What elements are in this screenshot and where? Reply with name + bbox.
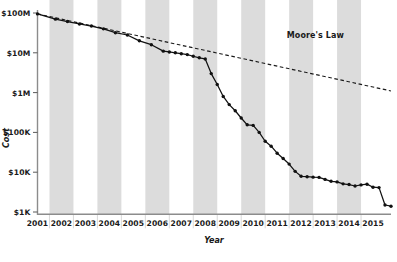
data-point [341,182,344,185]
cost-per-genome-chart: $100M$10M$1M$100K$10K$1K 200120022003200… [0,0,397,262]
data-point [269,145,272,148]
y-axis-title: Cost [2,127,11,148]
y-tick-label-$10M: $10M [7,49,31,58]
x-tick-label-2014: 2014 [338,219,360,228]
data-point [305,175,308,178]
x-tick-label-2012: 2012 [290,219,312,228]
y-tick-label-$1K: $1K [14,208,32,217]
data-point [323,178,326,181]
x-tick-label-2002: 2002 [51,219,73,228]
data-point [66,20,69,23]
year-band-2002 [49,0,73,214]
data-point [383,203,386,206]
x-tick-label-2003: 2003 [75,219,97,228]
data-point [36,12,39,15]
data-point [90,24,93,27]
x-tick-label-2011: 2011 [266,219,288,228]
data-point [180,52,183,55]
data-point [263,140,266,143]
x-tick-label-2005: 2005 [123,219,145,228]
data-point [150,43,153,46]
x-tick-label-2010: 2010 [242,219,264,228]
x-tick-label-2008: 2008 [194,219,216,228]
data-point [317,176,320,179]
data-point [126,33,129,36]
data-point [54,17,57,20]
moores-law-annotation: Moore's Law [287,31,345,40]
data-point [359,183,362,186]
data-point [186,53,189,56]
data-point [287,162,290,165]
y-tick-label-$100M: $100M [1,9,30,18]
x-axis-title: Year [204,236,225,245]
data-point [222,95,225,98]
data-point [257,131,260,134]
year-band-2008 [193,0,217,214]
data-point [78,22,81,25]
data-point [311,175,314,178]
data-point [216,83,219,86]
year-band-2006 [145,0,169,214]
data-point [365,182,368,185]
data-point [198,56,201,59]
data-point [168,50,171,53]
year-band-2010 [241,0,265,214]
data-point [228,103,231,106]
data-point [347,183,350,186]
x-tick-label-2001: 2001 [27,219,49,228]
data-point [377,186,380,189]
data-point [162,49,165,52]
data-point [174,51,177,54]
year-band-2004 [97,0,121,214]
data-point [246,123,249,126]
data-point [251,124,254,127]
y-tick-label-$1M: $1M [12,89,30,98]
x-axis-ticks-group: 2001200220032004200520062007200820092010… [27,219,384,228]
data-point [275,152,278,155]
data-point [210,72,213,75]
data-point [371,185,374,188]
data-point [335,180,338,183]
x-tick-label-2007: 2007 [171,219,193,228]
data-point [204,57,207,60]
data-point [299,175,302,178]
x-tick-label-2006: 2006 [147,219,169,228]
x-tick-label-2015: 2015 [362,219,384,228]
y-tick-label-$10K: $10K [8,168,31,177]
data-point [102,27,105,30]
data-point [281,157,284,160]
y-axis-ticks-group: $100M$10M$1M$100K$10K$1K [1,9,37,217]
x-tick-label-2004: 2004 [99,219,121,228]
data-point [293,170,296,173]
x-tick-label-2013: 2013 [314,219,336,228]
data-point [353,184,356,187]
data-point [138,39,141,42]
x-tick-label-2009: 2009 [218,219,240,228]
chart-svg: $100M$10M$1M$100K$10K$1K 200120022003200… [0,0,397,262]
data-point [234,109,237,112]
data-point [114,31,117,34]
data-point [329,180,332,183]
data-point [192,55,195,58]
data-point [389,204,392,207]
data-point [240,116,243,119]
